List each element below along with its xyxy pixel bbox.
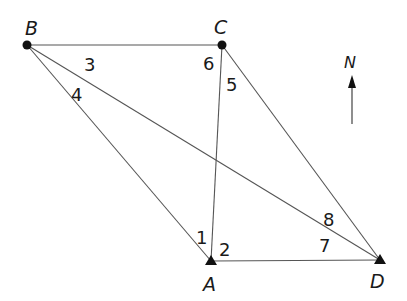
point-b-label: B <box>25 17 38 39</box>
point-c-label: C <box>214 16 228 38</box>
line-c-a <box>211 45 222 261</box>
north-label: N <box>344 53 356 72</box>
angle-label-2: 2 <box>219 239 230 260</box>
angle-label-1: 1 <box>196 227 207 248</box>
point-b-marker-icon <box>23 41 32 50</box>
angle-label-5: 5 <box>226 74 237 95</box>
point-a-label: A <box>201 273 216 295</box>
line-b-a <box>27 45 211 261</box>
angle-label-7: 7 <box>319 235 330 256</box>
angle-label-8: 8 <box>323 209 334 230</box>
survey-diagram: B C A D 3 4 6 5 1 2 8 7 N <box>0 0 407 301</box>
line-c-d <box>222 45 380 260</box>
angle-label-6: 6 <box>203 53 214 74</box>
point-d-marker-icon <box>374 254 386 264</box>
point-d-label: D <box>370 270 385 292</box>
angle-label-4: 4 <box>71 84 82 105</box>
line-a-d <box>211 260 380 261</box>
point-c-marker-icon <box>218 41 227 50</box>
angle-label-3: 3 <box>84 54 95 75</box>
north-arrow-icon <box>348 75 356 124</box>
